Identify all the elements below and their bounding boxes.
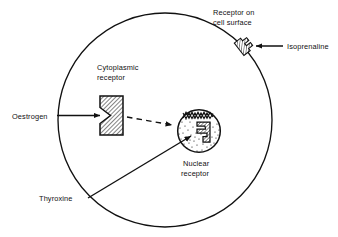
cell-receptor-diagram: Receptor on cell surface Isoprenaline Cy… [0,0,338,237]
cytoplasmic-receptor-label-line2: receptor [97,73,125,82]
nucleus [178,110,221,153]
nuclear-receptor-label-line2: receptor [181,169,209,178]
surface-receptor-label: Receptor on [213,8,255,17]
cytoplasmic-receptor-label: Cytoplasmic [97,63,139,72]
surface-receptor-label-line2: cell surface [213,18,252,27]
thyroxine-label: Thyroxine [39,194,73,203]
isoprenaline-label: Isoprenaline [287,42,329,51]
nuclear-receptor-label: Nuclear [183,159,210,168]
oestrogen-label: Oestrogen [12,112,48,121]
